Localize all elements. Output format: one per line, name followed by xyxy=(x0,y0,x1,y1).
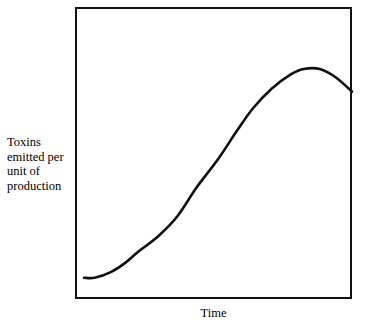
x-axis-label: Time xyxy=(75,306,352,321)
plot-area-frame xyxy=(75,7,352,299)
chart-figure: Toxins emitted per unit of production Ti… xyxy=(0,0,366,328)
y-axis-label: Toxins emitted per unit of production xyxy=(7,135,73,193)
